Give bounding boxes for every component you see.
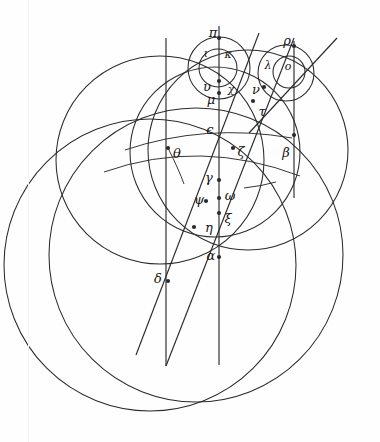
label-eta: η [205, 220, 213, 235]
circle-big-right [49, 108, 343, 402]
label-nu: ν [252, 82, 260, 97]
label-psi: ψ [194, 192, 205, 207]
label-delta: δ [154, 271, 162, 286]
point-upsilon [217, 79, 221, 83]
point-xi [217, 211, 221, 215]
label-iota: ι [204, 47, 208, 60]
point-tau [251, 99, 255, 103]
point-gamma [217, 178, 221, 182]
geometry-svg: πρικλουχνμτϵθζβγωψξηαδ [0, 0, 380, 442]
geometric-figure-canvas: πρικλουχνμτϵθζβγωψξηαδ [0, 0, 380, 442]
point-rho [292, 44, 296, 48]
label-pi: π [208, 25, 218, 40]
straight-lines-layer [136, 26, 337, 366]
point-omega [217, 196, 221, 200]
circle-big-left [4, 119, 296, 411]
point-theta [166, 146, 170, 150]
point-zeta [231, 146, 235, 150]
label-omega: ω [225, 188, 236, 203]
label-gamma: γ [205, 170, 213, 185]
label-kappa: κ [223, 48, 232, 61]
label-xi: ξ [224, 211, 232, 226]
label-mu: μ [207, 92, 215, 107]
circles-layer [4, 37, 348, 411]
label-lambda: λ [264, 59, 272, 72]
extra-arcs-layer [104, 133, 300, 188]
label-epsilon: ϵ [206, 122, 214, 137]
label-beta: β [281, 145, 290, 160]
point-alpha [217, 255, 221, 259]
point-beta [292, 133, 296, 137]
label-tau: τ [258, 104, 266, 119]
label-alpha: α [207, 248, 216, 263]
point-eta [192, 225, 196, 229]
label-zeta: ζ [237, 144, 245, 159]
point-mu [217, 91, 221, 95]
point-nu [262, 85, 266, 89]
label-omicron: ο [285, 60, 292, 73]
label-chi: χ [227, 83, 236, 96]
point-delta [166, 279, 170, 283]
arc-chord-mid [104, 156, 300, 176]
point-pi [217, 36, 221, 40]
label-theta: θ [173, 146, 181, 161]
label-rho: ρ [282, 33, 291, 48]
point-psi [204, 199, 208, 203]
